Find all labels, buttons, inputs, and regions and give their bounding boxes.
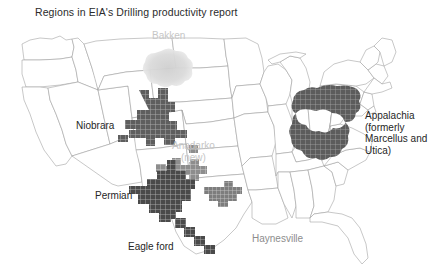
state-ar [242,156,278,190]
drilling-productivity-regions-figure: Regions in EIA's Drilling productivity r… [0,0,445,275]
us-map-svg [0,14,445,275]
state-fl [310,212,368,264]
state-wa [22,36,74,60]
state-or [22,57,78,87]
us-map: Bakken Niobrara Anadarko (new) Appalachi… [0,14,445,275]
